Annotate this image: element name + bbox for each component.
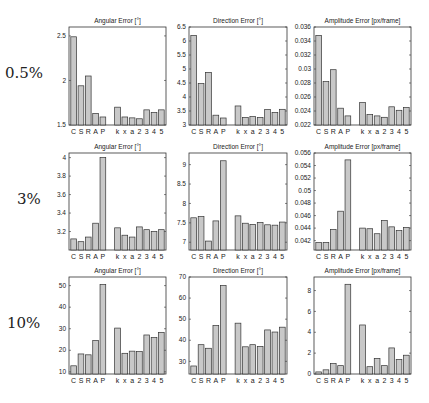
bar-2 (382, 117, 388, 125)
y-tick-label: 6 (307, 308, 311, 315)
bar-P (345, 284, 351, 374)
y-tick-label: 0.046 (295, 212, 312, 219)
bar-5 (403, 355, 409, 374)
bar-2 (137, 227, 143, 250)
chart-title: Amplitude Error [px/frame] (325, 267, 401, 275)
x-tick-label: x (244, 253, 248, 260)
x-tick-label: P (346, 253, 351, 260)
y-tick-label: 3.2 (57, 228, 66, 235)
y-tick-label: 40 (179, 336, 187, 343)
y-tick-label: 30 (179, 358, 187, 365)
chart-title: Angular Error [°] (94, 267, 141, 275)
y-tick-label: 4.5 (177, 79, 186, 86)
x-tick-label: 2 (382, 253, 386, 260)
x-tick-label: 4 (152, 377, 156, 384)
bar-x (122, 117, 128, 125)
x-tick-label: 4 (273, 128, 277, 135)
bar-k (115, 107, 121, 125)
chart-grid: Angular Error [°]1.522.5CSRAPkxa2345Dire… (0, 0, 429, 403)
bar-k (235, 216, 241, 250)
chart-title: Direction Error [°] (213, 267, 263, 275)
bar-S (323, 370, 329, 374)
x-tick-label: a (251, 377, 255, 384)
bar-3 (389, 227, 395, 250)
x-tick-label: C (71, 377, 76, 384)
x-tick-label: k (361, 377, 365, 384)
x-tick-label: 2 (137, 253, 141, 260)
y-tick-label: 6 (182, 37, 186, 44)
bar-A (213, 115, 219, 125)
x-tick-label: k (361, 128, 365, 135)
x-tick-label: C (71, 128, 76, 135)
bar-x (243, 347, 249, 374)
x-tick-label: 5 (159, 128, 163, 135)
bar-C (71, 366, 77, 374)
bar-x (367, 229, 373, 250)
bar-a (129, 237, 135, 250)
bar-x (367, 115, 373, 126)
x-tick-label: 2 (258, 253, 262, 260)
y-tick-label: 3.8 (57, 172, 66, 179)
y-tick-label: 0.054 (295, 162, 312, 169)
bar-C (316, 35, 322, 125)
bar-a (250, 224, 256, 250)
y-tick-label: 2 (62, 77, 66, 84)
bar-3 (144, 335, 150, 374)
bar-P (100, 117, 106, 125)
y-tick-label: 50 (59, 282, 67, 289)
x-tick-label: 5 (404, 377, 408, 384)
bar-a (250, 345, 256, 374)
bar-R (206, 348, 212, 374)
x-tick-label: 4 (273, 377, 277, 384)
y-tick-label: 1.5 (57, 121, 66, 128)
bar-A (338, 108, 344, 125)
x-tick-label: A (214, 377, 219, 384)
y-tick-label: 3.5 (177, 107, 186, 114)
bar-k (235, 106, 241, 125)
x-tick-label: k (116, 377, 120, 384)
bar-P (100, 158, 106, 250)
x-tick-label: 2 (258, 128, 262, 135)
x-tick-label: x (123, 253, 127, 260)
x-tick-label: 3 (145, 377, 149, 384)
y-tick-label: 0.028 (295, 79, 312, 86)
x-tick-label: R (331, 377, 336, 384)
y-tick-label: 3.6 (57, 191, 66, 198)
bar-a (129, 118, 135, 125)
bar-C (316, 242, 322, 250)
y-tick-label: 5.5 (177, 51, 186, 58)
x-tick-label: R (206, 253, 211, 260)
x-tick-label: 4 (273, 253, 277, 260)
x-tick-label: A (338, 128, 343, 135)
bar-3 (265, 330, 271, 374)
y-tick-label: 4 (182, 93, 186, 100)
x-tick-label: S (79, 128, 84, 135)
chart-title: Angular Error [°] (94, 143, 141, 151)
bar-5 (403, 108, 409, 126)
y-tick-label: 0.03 (298, 65, 311, 72)
y-tick-label: 0.026 (295, 93, 312, 100)
bar-S (323, 82, 329, 125)
bar-a (250, 117, 256, 125)
x-tick-label: R (86, 128, 91, 135)
y-tick-label: 0.036 (295, 23, 312, 30)
x-tick-label: S (199, 377, 204, 384)
bar-C (191, 35, 197, 125)
bar-k (235, 323, 241, 374)
bar-2 (137, 352, 143, 374)
x-tick-label: C (71, 253, 76, 260)
bar-x (367, 367, 373, 374)
chart-title: Amplitude Error [px/frame] (325, 143, 401, 151)
y-tick-label: 8 (182, 200, 186, 207)
bar-4 (396, 359, 402, 374)
x-tick-label: S (199, 253, 204, 260)
bar-5 (279, 222, 285, 250)
bar-x (122, 235, 128, 250)
x-tick-label: C (191, 128, 196, 135)
x-tick-label: 3 (390, 377, 394, 384)
bar-2 (382, 366, 388, 374)
bar-C (71, 37, 77, 125)
chart-title: Angular Error [°] (94, 17, 141, 25)
y-tick-label: 60 (179, 294, 187, 301)
bar-4 (151, 113, 157, 125)
